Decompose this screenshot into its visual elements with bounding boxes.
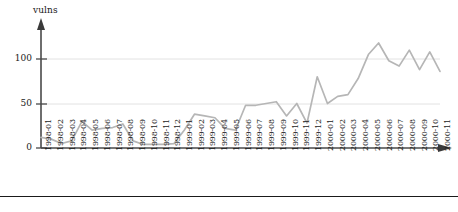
x-tick-label: 1998-04	[79, 119, 88, 151]
x-tick-label: 2000-04	[361, 119, 370, 151]
x-tick-label: 1998-02	[56, 119, 65, 151]
x-tick-label: 2000-09	[420, 119, 429, 151]
vulnerability-line-chart: vulns 100 50 0 1998-011998-021998-031998…	[0, 0, 458, 212]
x-tick-label: 1999-07	[255, 119, 264, 151]
x-tick-label: 1998-01	[44, 119, 53, 151]
x-tick-label: 2000-10	[431, 119, 440, 151]
x-tick-label: 1999-05	[232, 119, 241, 151]
x-tick-label: 1999-12	[314, 119, 323, 151]
x-tick-label: 1999-02	[197, 119, 206, 151]
x-tick-label: 1998-05	[91, 119, 100, 151]
x-tick-label: 1998-11	[162, 119, 171, 151]
x-tick-label: 1998-06	[103, 119, 112, 151]
x-tick-label: 1999-01	[185, 119, 194, 151]
x-tick-label: 1999-11	[302, 119, 311, 151]
x-tick-label: 1998-12	[173, 119, 182, 151]
x-tick-label: 2000-08	[408, 119, 417, 151]
x-tick-label: 2000-02	[338, 119, 347, 151]
x-tick-label: 2000-11	[443, 119, 452, 151]
x-tick-label: 1998-09	[138, 119, 147, 151]
x-tick-label: 1998-10	[150, 119, 159, 151]
bottom-divider	[0, 196, 458, 197]
y-axis-arrow-icon	[37, 18, 45, 30]
x-tick-label: 1999-09	[279, 119, 288, 151]
plot-area	[0, 0, 458, 212]
x-tick-label: 1999-08	[267, 119, 276, 151]
x-tick-label: 2000-06	[385, 119, 394, 151]
x-tick-label: 1999-03	[208, 119, 217, 151]
x-tick-label: 1998-08	[126, 119, 135, 151]
x-tick-label: 2000-03	[349, 119, 358, 151]
gridlines	[41, 59, 440, 104]
x-tick-label: 1998-07	[115, 119, 124, 151]
x-tick-label: 1998-03	[68, 119, 77, 151]
x-tick-label: 1999-06	[244, 119, 253, 151]
x-tick-label: 2000-07	[396, 119, 405, 151]
x-tick-label: 1999-04	[220, 119, 229, 151]
x-tick-label: 2000-01	[326, 119, 335, 151]
x-tick-label: 2000-05	[373, 119, 382, 151]
x-tick-label: 1999-10	[291, 119, 300, 151]
